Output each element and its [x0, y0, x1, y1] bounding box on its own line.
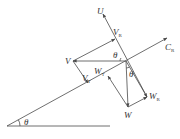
vectors [73, 14, 147, 107]
vector-diagram: U VR CR V VT WT WR W θ θ θ [0, 0, 180, 139]
label-theta-top: θ [113, 50, 118, 60]
label-u: U [97, 6, 104, 16]
label-wt: WT [94, 66, 105, 77]
top-angle-arc [120, 58, 121, 61]
label-w: W [124, 110, 133, 120]
right-angle-arc [126, 67, 129, 68]
label-v: V [65, 56, 72, 66]
vector-wt-component [108, 76, 128, 107]
label-cr: CR [165, 42, 175, 53]
label-vr: VR [113, 27, 123, 38]
label-vt: VT [82, 73, 91, 84]
wr-ray [126, 61, 147, 97]
labels: U VR CR V VT WT WR W θ θ θ [24, 6, 175, 127]
label-theta-right: θ [129, 69, 134, 79]
vector-wr-component [128, 97, 147, 107]
label-theta-incline: θ [24, 117, 29, 127]
u-axis-line [103, 14, 147, 97]
incline-angle-arc [18, 120, 20, 126]
label-wr: WR [149, 91, 161, 102]
vector-vr-component [73, 39, 115, 61]
